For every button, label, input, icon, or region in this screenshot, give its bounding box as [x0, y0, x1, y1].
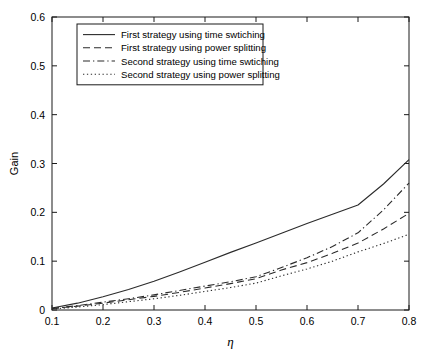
x-axis-label: η	[227, 334, 233, 349]
x-tick-label: 0.5	[249, 315, 264, 327]
x-tick-label: 0.8	[402, 315, 417, 327]
x-tick-label: 0.6	[300, 315, 315, 327]
series-line-3	[52, 183, 409, 309]
y-tick-label: 0	[39, 304, 45, 316]
series-layer	[52, 160, 409, 309]
legend-layer: First strategy using time swtichingFirst…	[77, 24, 280, 85]
y-axis-label: Gain	[8, 152, 20, 175]
legend-label-2: First strategy using power splitting	[121, 42, 266, 53]
y-tick-label: 0.6	[30, 11, 45, 23]
series-line-2	[52, 213, 409, 308]
y-tick-label: 0.4	[30, 109, 45, 121]
figure-container: First strategy using time swtichingFirst…	[0, 0, 426, 352]
x-tick-label: 0.1	[45, 315, 60, 327]
legend-label-4: Second strategy using power splitting	[121, 69, 280, 80]
legend-label-1: First strategy using time swtiching	[121, 29, 265, 40]
y-tick-label: 0.1	[30, 255, 45, 267]
y-tick-label: 0.2	[30, 206, 45, 218]
legend-label-3: Second strategy using time swtiching	[121, 56, 279, 67]
x-tick-label: 0.2	[96, 315, 111, 327]
series-line-4	[52, 234, 409, 309]
y-tick-label: 0.3	[30, 158, 45, 170]
y-tick-label: 0.5	[30, 60, 45, 72]
line-chart: First strategy using time swtichingFirst…	[0, 0, 426, 352]
x-tick-label: 0.4	[198, 315, 213, 327]
x-tick-label: 0.3	[147, 315, 162, 327]
x-tick-label: 0.7	[351, 315, 366, 327]
